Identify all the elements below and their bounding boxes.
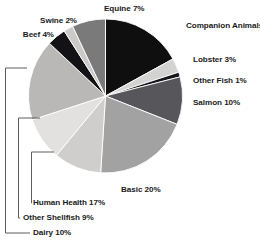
slice-label-human-health: Human Health 17% [33, 199, 105, 207]
leader-bracket-human-health [31, 152, 54, 203]
slice-label-equine: Equine 7% [104, 5, 144, 13]
slice-label-salmon: Salmon 10% [193, 99, 240, 107]
slice-label-other-fish: Other Fish 1% [193, 77, 247, 85]
slice-label-other-shellfish: Other Shellfish 9% [23, 214, 94, 222]
pie-slice-group [29, 19, 183, 173]
slice-label-companion-animals: Companion Animals 17% [186, 22, 260, 30]
slice-label-swine: Swine 2% [40, 17, 77, 25]
leader-bracket-dairy [6, 68, 31, 233]
slice-label-basic: Basic 20% [121, 186, 161, 194]
slice-label-dairy: Dairy 10% [33, 229, 71, 237]
slice-label-beef: Beef 4% [23, 31, 54, 39]
slice-label-lobster: Lobster 3% [193, 56, 236, 64]
pie-chart-figure: Equine 7% Swine 2% Beef 4% Companion Ani… [0, 0, 260, 243]
